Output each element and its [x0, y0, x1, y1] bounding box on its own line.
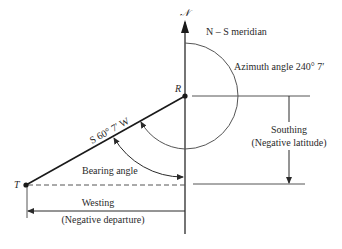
point-t-label: T — [14, 179, 21, 190]
point-t — [23, 182, 28, 187]
north-arrow-icon — [181, 20, 189, 234]
bearing-angle-label: Bearing angle — [82, 165, 138, 176]
southing-sublabel: (Negative latitude) — [251, 137, 326, 149]
westing-label: Westing — [82, 197, 115, 208]
north-symbol: 𝒩 — [180, 7, 193, 18]
westing-sublabel: (Negative departure) — [61, 214, 144, 226]
traverse-diagram: 𝒩 N – S meridian Azimuth angle 240° 7′ S… — [0, 0, 342, 249]
meridian-label: N – S meridian — [206, 26, 267, 37]
point-r — [182, 93, 187, 98]
southing-label: Southing — [271, 124, 307, 135]
point-r-label: R — [174, 83, 181, 94]
azimuth-label: Azimuth angle 240° 7′ — [234, 61, 324, 72]
